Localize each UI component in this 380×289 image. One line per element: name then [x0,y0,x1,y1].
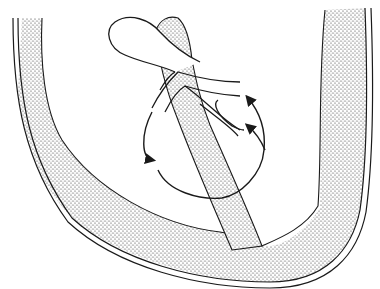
arrow-down-icon [144,112,152,160]
diagram-canvas [0,0,380,289]
anatomical-diagram [0,0,380,289]
